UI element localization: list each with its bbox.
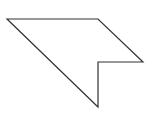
pentagon-shape [7, 19, 143, 107]
diagram-canvas [0, 0, 153, 128]
